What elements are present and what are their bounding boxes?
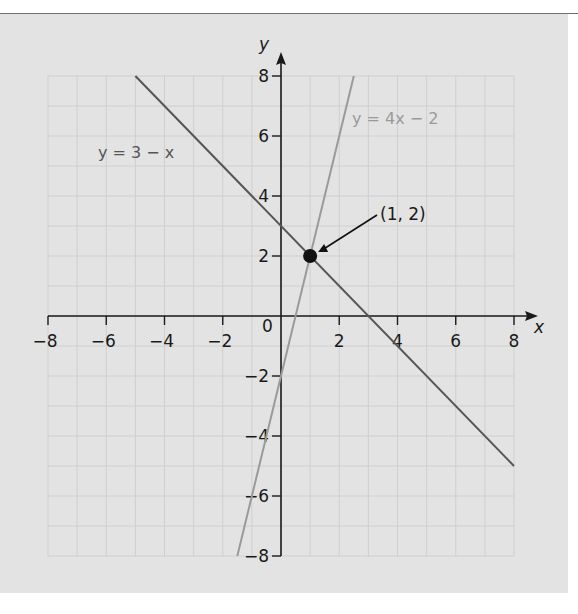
line2-label: y = 4x − 2 [352, 109, 438, 128]
y-tick-label: 8 [258, 66, 269, 86]
origin-label: 0 [262, 316, 273, 336]
x-tick-label: 2 [334, 331, 345, 351]
intersection-label: (1, 2) [380, 204, 426, 224]
x-tick-label: −4 [149, 331, 174, 351]
y-tick-label: −8 [244, 546, 269, 566]
x-tick-label: 6 [450, 331, 461, 351]
y-tick-label: −6 [244, 486, 269, 506]
x-tick-label: −2 [207, 331, 232, 351]
x-tick-label: 8 [509, 331, 520, 351]
x-axis-label: x [533, 317, 545, 337]
x-tick-label: −8 [32, 331, 57, 351]
x-tick-label: −6 [91, 331, 116, 351]
intersection-point [303, 249, 317, 263]
line-chart: −8−6−4−224688642−2−4−6−80xyy = 3 − xy = … [0, 0, 578, 614]
y-axis-label: y [258, 34, 270, 54]
series-line-1 [135, 76, 514, 466]
y-tick-label: −2 [244, 366, 269, 386]
line1-label: y = 3 − x [98, 143, 174, 162]
y-tick-label: 2 [258, 246, 269, 266]
y-tick-label: 6 [258, 126, 269, 146]
